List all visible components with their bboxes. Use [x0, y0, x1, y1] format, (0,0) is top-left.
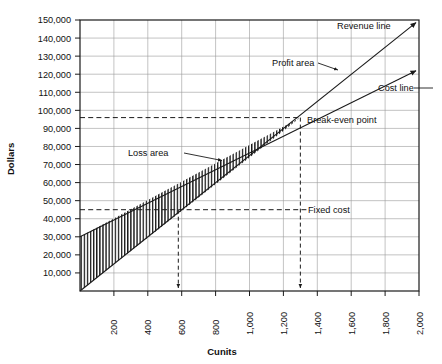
x-tick-label: 600 [177, 320, 187, 335]
y-tick-label: 70,000 [43, 160, 71, 170]
y-tick-label: 120,000 [38, 70, 71, 80]
x-tick-label: 1,800 [381, 312, 391, 335]
annotation-profit-area: Profit area [272, 58, 315, 68]
annotation-loss-area: Loss area [128, 148, 169, 158]
y-tick-label: 150,000 [38, 15, 71, 25]
y-tick-label: 40,000 [43, 214, 71, 224]
break-even-chart: 150,000 140,000 130,000 120,000 110,000 … [0, 0, 442, 364]
x-tick-label: 2,000 [415, 312, 425, 335]
y-tick-label: 10,000 [43, 268, 71, 278]
chart-canvas: 150,000 140,000 130,000 120,000 110,000 … [0, 0, 442, 364]
x-tick-label: 200 [109, 320, 119, 335]
x-tick-label: 1,400 [313, 312, 323, 335]
y-tick-label: 80,000 [43, 142, 71, 152]
x-axis-title: Cunits [207, 346, 237, 357]
y-axis-title: Dollars [5, 143, 16, 175]
annotation-break-even-point: Break-even point [307, 115, 377, 125]
y-tick-label: 130,000 [38, 52, 71, 62]
x-tick-label: 1,200 [279, 312, 289, 335]
y-tick-label: 90,000 [43, 124, 71, 134]
x-tick-label: 1,600 [347, 312, 357, 335]
y-tick-label: 60,000 [43, 178, 71, 188]
annotation-fixed-cost: Fixed cost [308, 205, 350, 215]
y-tick-label: 30,000 [43, 232, 71, 242]
y-tick-label: 20,000 [43, 250, 71, 260]
y-tick-label: 100,000 [38, 106, 71, 116]
y-axis-tick-labels: 150,000 140,000 130,000 120,000 110,000 … [38, 15, 71, 278]
x-tick-label: 1,000 [245, 312, 255, 335]
x-tick-label: 400 [143, 320, 153, 335]
y-tick-label: 110,000 [38, 88, 71, 98]
y-tick-label: 140,000 [38, 34, 71, 44]
x-tick-label: 800 [211, 320, 221, 335]
y-tick-label: 50,000 [43, 196, 71, 206]
annotation-cost-line: Cost line [378, 83, 414, 93]
annotation-revenue-line: Revenue line [337, 21, 391, 31]
